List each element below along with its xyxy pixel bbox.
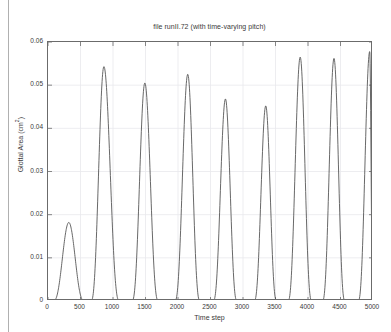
y-axis-label: Glottal Area (cm2) — [14, 90, 23, 200]
plot-area — [47, 41, 372, 300]
figure-window: file runII.72 (with time-varying pitch) … — [0, 0, 391, 332]
y-axis-label-exponent: 2 — [14, 119, 20, 122]
chart-title: file runII.72 (with time-varying pitch) — [47, 23, 372, 30]
x-tick-label: 5000 — [352, 303, 391, 310]
y-tick-label: 0.02 — [13, 210, 43, 217]
y-tick-label: 0.05 — [13, 80, 43, 87]
x-axis-label: Time step — [47, 314, 372, 321]
y-tick-label: 0.06 — [13, 37, 43, 44]
y-tick-label: 0.01 — [13, 253, 43, 260]
plot-svg — [48, 42, 372, 300]
y-axis-label-tail: ) — [17, 117, 24, 119]
y-tick-label: 0 — [13, 296, 43, 303]
matlab-figure: file runII.72 (with time-varying pitch) … — [0, 0, 391, 332]
y-axis-label-main: Glottal Area (cm — [17, 122, 24, 172]
